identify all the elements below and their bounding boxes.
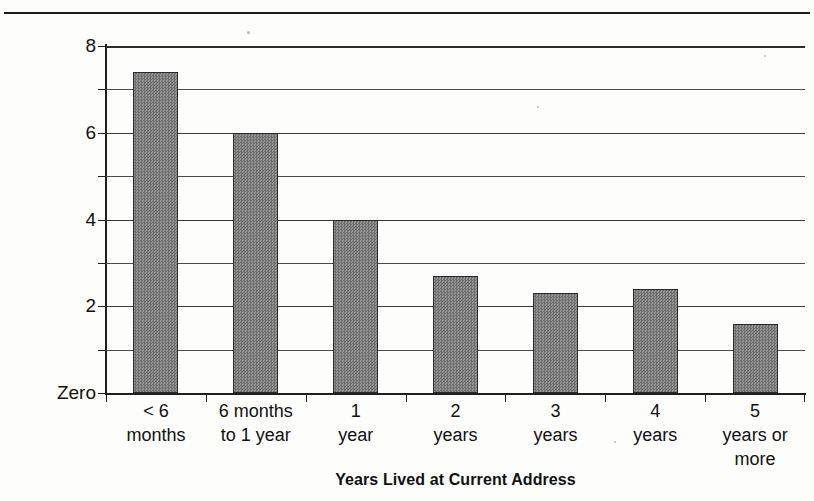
bar-3-years	[533, 293, 578, 393]
x-category-line: 6 months	[206, 399, 306, 423]
figure-page: Robberies per 100,000 Population 8 6 4 2…	[0, 0, 814, 501]
gridline-3	[106, 263, 805, 264]
x-category-line: 4	[605, 399, 705, 423]
x-category-label-4: 3 years	[505, 399, 605, 447]
y-tick-label-zero: Zero	[57, 382, 96, 404]
x-category-line: 1	[306, 399, 406, 423]
plot-area	[106, 46, 805, 393]
page-top-rule	[4, 12, 810, 14]
bar-4-years	[633, 289, 678, 393]
x-category-line: < 6	[106, 399, 206, 423]
gridline-7	[106, 89, 805, 90]
y-tick-3	[98, 263, 106, 264]
gridline-8	[106, 46, 805, 48]
x-category-line: 5	[705, 399, 805, 423]
y-tick-1	[98, 350, 106, 351]
x-category-label-5: 4 years	[605, 399, 705, 447]
x-category-line: 2	[406, 399, 506, 423]
bar-1-year	[333, 220, 378, 394]
bar-2-years	[433, 276, 478, 393]
x-category-line: to 1 year	[206, 423, 306, 447]
y-tick-label-4: 4	[85, 209, 96, 231]
x-category-line: years	[605, 423, 705, 447]
x-category-line: months	[106, 423, 206, 447]
x-category-line: 3	[505, 399, 605, 423]
y-tick-6	[98, 133, 106, 134]
x-category-line: more	[705, 447, 805, 471]
gridline-4	[106, 220, 805, 221]
bar-lt-6-months	[133, 72, 178, 393]
bar-5-years-or-more	[733, 324, 778, 393]
x-category-line: years	[406, 423, 506, 447]
y-tick-7	[98, 89, 106, 90]
bar-6-months-to-1-year	[233, 133, 278, 393]
x-category-line: years	[505, 423, 605, 447]
x-category-label-3: 2 years	[406, 399, 506, 447]
x-category-line: year	[306, 423, 406, 447]
scan-speck	[247, 31, 250, 34]
x-axis-line	[105, 393, 806, 395]
x-axis-category-labels: < 6 months 6 months to 1 year 1 year 2 y…	[106, 399, 805, 469]
x-category-label-1: 6 months to 1 year	[206, 399, 306, 447]
y-tick-label-6: 6	[85, 122, 96, 144]
y-tick-2	[98, 306, 106, 307]
x-axis-title: Years Lived at Current Address	[106, 471, 805, 489]
x-category-line: years or	[705, 423, 805, 447]
x-category-label-6: 5 years or more	[705, 399, 805, 471]
y-tick-4	[98, 220, 106, 221]
x-category-label-0: < 6 months	[106, 399, 206, 447]
y-tick-label-2: 2	[85, 295, 96, 317]
y-tick-label-8: 8	[85, 35, 96, 57]
y-axis-tick-labels: 8 6 4 2 Zero	[38, 46, 96, 393]
y-tick-5	[98, 176, 106, 177]
y-tick-zero	[98, 393, 106, 394]
x-category-label-2: 1 year	[306, 399, 406, 447]
y-tick-8	[98, 46, 106, 47]
gridline-6	[106, 133, 805, 134]
gridline-5	[106, 176, 805, 177]
